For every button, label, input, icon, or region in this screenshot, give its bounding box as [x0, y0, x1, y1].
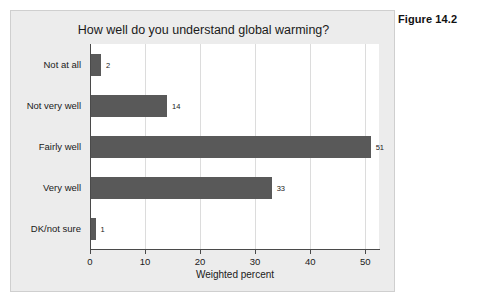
bar-value-label: 51 [376, 143, 384, 152]
bar [90, 177, 272, 199]
plot-area [90, 44, 379, 249]
x-tick-label-10: 10 [140, 256, 151, 267]
bar-value-label: 1 [101, 225, 105, 234]
x-axis-line [90, 249, 380, 250]
bar [90, 95, 167, 117]
x-tick-20 [200, 250, 201, 254]
x-tick-0 [90, 250, 91, 254]
bar-value-label: 14 [172, 102, 180, 111]
x-tick-label-50: 50 [360, 256, 371, 267]
chart-title: How well do you understand global warmin… [11, 23, 396, 37]
category-label: Fairly well [39, 141, 81, 152]
category-label: DK/not sure [31, 223, 81, 234]
bar-value-label: 33 [277, 184, 285, 193]
x-axis-title: Weighted percent [90, 269, 380, 280]
bar-value-label: 2 [106, 61, 110, 70]
x-tick-40 [310, 250, 311, 254]
bar [90, 136, 371, 158]
x-tick-label-40: 40 [305, 256, 316, 267]
figure-caption: Figure 14.2 [398, 13, 457, 25]
x-tick-label-20: 20 [195, 256, 206, 267]
x-tick-10 [145, 250, 146, 254]
y-axis-line [90, 44, 91, 250]
x-tick-50 [365, 250, 366, 254]
chart-panel: How well do you understand global warmin… [10, 10, 395, 292]
x-tick-label-30: 30 [250, 256, 261, 267]
bar [90, 54, 101, 76]
category-label: Not very well [27, 100, 81, 111]
x-tick-label-0: 0 [87, 256, 92, 267]
category-label: Not at all [44, 59, 82, 70]
category-label: Very well [43, 182, 81, 193]
x-tick-30 [255, 250, 256, 254]
